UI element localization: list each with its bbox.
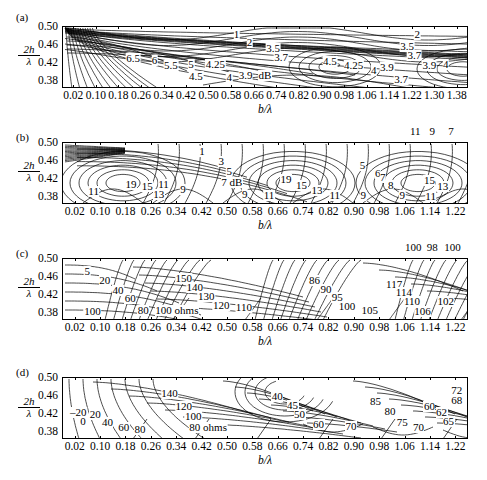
- tickmark-3: [151, 201, 152, 204]
- contour-label: 3.7: [274, 52, 289, 63]
- tickmark-top-13: [405, 142, 406, 145]
- contour-label: 105: [361, 305, 379, 316]
- tickmark-4: [176, 436, 177, 439]
- tickmark-0: [75, 201, 76, 204]
- contour-label: 1: [199, 146, 206, 157]
- contour-label: 106: [414, 306, 432, 317]
- contour-label: 11: [263, 190, 275, 201]
- contour-label: 40: [271, 391, 283, 402]
- xtick-15: 1.22: [439, 440, 471, 452]
- tickmark-top-14: [430, 377, 431, 380]
- tickmark-top-9: [276, 26, 277, 29]
- contour-label: 68: [451, 395, 463, 406]
- panel-c-ytick-2: 0.42: [28, 288, 58, 300]
- tickmark-top-1: [100, 258, 101, 261]
- tickmark-top-3: [151, 377, 152, 380]
- tickmark-top-14: [389, 26, 390, 29]
- panel-b-tag: (b): [16, 131, 29, 143]
- contour-line: [438, 260, 469, 320]
- tickmark-top-7: [252, 258, 253, 261]
- panel-d-tag: (d): [16, 366, 29, 378]
- tickmark-top-15: [412, 26, 413, 29]
- panel-c-ytick-3: 0.38: [28, 306, 58, 318]
- contour-line: [264, 260, 285, 320]
- contour-label: 100: [84, 306, 102, 317]
- panel-b-ytick-2: 0.42: [28, 172, 58, 184]
- contour-line: [381, 419, 395, 439]
- contour-line: [289, 260, 317, 320]
- tickmark-3: [141, 85, 142, 88]
- contour-line: [458, 144, 468, 204]
- contour-label: 80: [384, 406, 396, 417]
- contour-label: 8: [388, 180, 395, 191]
- contour-label: 13: [153, 189, 165, 200]
- contour-label: 3.7: [407, 50, 422, 61]
- contour-label: 60: [313, 419, 325, 430]
- contour-label: 98: [427, 242, 438, 253]
- tickmark-top-7: [252, 377, 253, 380]
- tickmark-11: [321, 85, 322, 88]
- contour-label: 3.9: [238, 70, 253, 81]
- tickmark-3: [151, 436, 152, 439]
- tickmark-8: [254, 85, 255, 88]
- contour-line: [257, 419, 271, 439]
- contour-line: [255, 260, 273, 320]
- tickmark-7: [252, 436, 253, 439]
- tickmark-top-12: [379, 258, 380, 261]
- panel-a-ytick-1: 0.46: [28, 38, 58, 50]
- tickmark-top-17: [457, 26, 458, 29]
- contour-line: [133, 267, 303, 297]
- contour-figure: (a) 2h λ 0.50 0.46 0.42 0.38 0.020.100.1…: [0, 0, 487, 480]
- tickmark-8: [278, 201, 279, 204]
- contour-label: 0: [80, 416, 87, 427]
- tickmark-top-15: [455, 142, 456, 145]
- tickmark-top-10: [299, 26, 300, 29]
- contour-line: [255, 378, 314, 410]
- tickmark-15: [455, 436, 456, 439]
- contour-label: 60: [124, 293, 136, 304]
- tickmark-top-3: [141, 26, 142, 29]
- tickmark-0: [73, 85, 74, 88]
- tickmark-2: [125, 317, 126, 320]
- contour-label: 80 ohms: [189, 422, 228, 433]
- contour-label: dB: [258, 70, 272, 81]
- tickmark-6: [227, 201, 228, 204]
- panel-a-xlabel: b/λ: [235, 103, 295, 115]
- contour-label: 11: [88, 186, 100, 197]
- tickmark-top-0: [73, 26, 74, 29]
- tickmark-top-8: [278, 258, 279, 261]
- contour-label: 3.9: [422, 60, 437, 71]
- contour-label: 3.7: [394, 74, 409, 85]
- tickmark-top-0: [75, 142, 76, 145]
- tickmark-2: [118, 85, 119, 88]
- tickmark-top-15: [455, 377, 456, 380]
- contour-label: 120: [212, 300, 230, 311]
- panel-b-xlabel: b/λ: [235, 219, 295, 231]
- contour-label: 6.5: [126, 53, 141, 64]
- contour-label: 9: [360, 190, 367, 201]
- tickmark-10: [328, 201, 329, 204]
- tickmark-top-10: [328, 258, 329, 261]
- panel-c-xlabel: b/λ: [235, 335, 295, 347]
- tickmark-11: [354, 436, 355, 439]
- contour-label: 85: [369, 396, 381, 407]
- tickmark-4: [176, 317, 177, 320]
- tickmark-1: [100, 317, 101, 320]
- contour-label: 4.5: [323, 56, 338, 67]
- panel-a-tag: (a): [16, 11, 28, 23]
- panel-a-ytick-0: 0.50: [28, 20, 58, 32]
- tickmark-4: [164, 85, 165, 88]
- panel-c-tag: (c): [16, 247, 28, 259]
- tickmark-13: [367, 85, 368, 88]
- tickmark-9: [303, 317, 304, 320]
- contour-label: 5: [188, 59, 195, 70]
- contour-label: 4.25: [343, 60, 363, 71]
- tickmark-top-13: [367, 26, 368, 29]
- contour-label: 13: [437, 181, 449, 192]
- tickmark-12: [344, 85, 345, 88]
- tickmark-7: [252, 201, 253, 204]
- tickmark-top-0: [75, 258, 76, 261]
- xtick-17: 1.38: [441, 89, 473, 101]
- contour-label: 90: [320, 284, 332, 295]
- tickmark-0: [75, 436, 76, 439]
